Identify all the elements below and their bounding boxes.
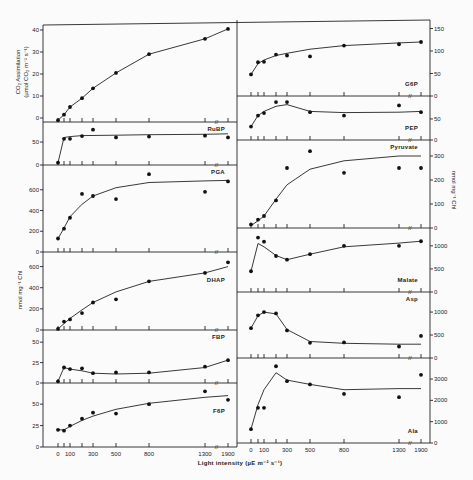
data-point: [56, 379, 60, 383]
svg-text:200: 200: [434, 177, 445, 183]
svg-text:30: 30: [32, 49, 39, 55]
data-point: [147, 135, 151, 139]
panel-asp: //05001000Asp: [237, 296, 448, 361]
x-tick-label: 300: [282, 447, 293, 453]
data-point: [308, 55, 312, 59]
co2-y-axis-label-line2: (µmol CO₂ m⁻² s⁻¹): [23, 46, 29, 97]
svg-text:25: 25: [32, 423, 39, 429]
svg-text:0: 0: [36, 115, 40, 121]
svg-text:600: 600: [29, 264, 40, 270]
data-point: [56, 428, 60, 432]
x-tick-label: 1900: [414, 447, 428, 453]
data-point: [249, 223, 253, 227]
svg-text:50: 50: [32, 339, 39, 345]
data-point: [256, 60, 260, 64]
data-point: [56, 237, 60, 241]
data-point: [68, 137, 72, 141]
data-point: [80, 366, 84, 370]
data-point: [68, 318, 72, 322]
data-point: [203, 190, 207, 194]
axis-break-mark: //: [408, 289, 412, 295]
data-point: [114, 136, 118, 140]
data-point: [91, 128, 95, 132]
panel-g6p: //050100150G6P: [237, 26, 445, 100]
data-point: [285, 166, 289, 170]
data-point: [147, 52, 151, 56]
data-point: [80, 192, 84, 196]
fit-curve: [251, 156, 421, 226]
svg-text:50: 50: [32, 139, 39, 145]
axis-break-mark: //: [408, 93, 412, 99]
panel-label: PEP: [405, 125, 418, 131]
svg-text:500: 500: [434, 332, 445, 338]
data-point: [203, 37, 207, 41]
data-point: [91, 411, 95, 415]
data-point: [285, 54, 289, 58]
axis-break-mark: //: [408, 440, 412, 446]
fit-curve: [58, 134, 228, 163]
data-point: [56, 118, 60, 122]
fit-curve: [58, 267, 228, 329]
fit-curve: [58, 360, 228, 381]
panel-fbp: //02550FBP: [32, 334, 237, 386]
data-point: [91, 371, 95, 375]
metabolite-light-response-figure: //010203040//050RuBP//0200400600PGA//020…: [0, 0, 473, 480]
fit-curve: [58, 180, 228, 238]
svg-text:100: 100: [434, 201, 445, 207]
svg-text:300: 300: [434, 153, 445, 159]
data-point: [249, 125, 253, 129]
data-point: [80, 311, 84, 315]
svg-text:200: 200: [29, 228, 40, 234]
data-point: [285, 100, 289, 104]
data-point: [256, 406, 260, 410]
svg-text:0: 0: [36, 162, 40, 168]
data-point: [397, 104, 401, 108]
data-point: [419, 373, 423, 377]
data-point: [285, 379, 289, 383]
data-point: [91, 86, 95, 90]
data-point: [80, 417, 84, 421]
data-point: [308, 341, 312, 345]
data-point: [91, 194, 95, 198]
panel-ala: //0100020003000Ala010030050080013001900: [237, 364, 448, 453]
svg-text:0: 0: [434, 355, 438, 361]
panel-pga: //0200400600PGA: [29, 169, 237, 255]
data-point: [56, 161, 60, 165]
svg-text:40: 40: [32, 27, 39, 33]
svg-text:0: 0: [434, 137, 438, 143]
data-point: [419, 239, 423, 243]
axis-break-mark: //: [215, 162, 219, 168]
panel-label: Malate: [398, 277, 419, 283]
fit-curve: [251, 105, 421, 127]
x-tick-label: 500: [305, 447, 316, 453]
svg-text:0: 0: [434, 225, 438, 231]
axis-break-mark: //: [215, 119, 219, 125]
data-point: [203, 134, 207, 138]
data-point: [308, 252, 312, 256]
data-point: [80, 96, 84, 100]
svg-text:25: 25: [32, 360, 39, 366]
data-point: [226, 136, 230, 140]
panel-pyruvate: //0100200300Pyruvate: [237, 144, 445, 231]
fit-curve: [58, 29, 228, 120]
data-point: [203, 365, 207, 369]
data-point: [262, 60, 266, 64]
data-point: [342, 340, 346, 344]
x-tick-label: 0: [249, 447, 253, 453]
data-point: [68, 367, 72, 371]
svg-text:1000: 1000: [434, 309, 448, 315]
data-point: [62, 113, 66, 117]
x-axis-label: Light intensity (µE m⁻² s⁻¹): [198, 460, 283, 466]
data-point: [285, 258, 289, 262]
data-point: [114, 297, 118, 301]
fit-curve: [58, 396, 228, 430]
panel-label: F6P: [213, 408, 225, 414]
data-point: [114, 370, 118, 374]
data-point: [226, 27, 230, 31]
data-point: [419, 40, 423, 44]
data-point: [342, 392, 346, 396]
svg-text:600: 600: [29, 187, 40, 193]
fit-curve: [251, 42, 421, 74]
data-point: [147, 279, 151, 283]
data-point: [419, 166, 423, 170]
